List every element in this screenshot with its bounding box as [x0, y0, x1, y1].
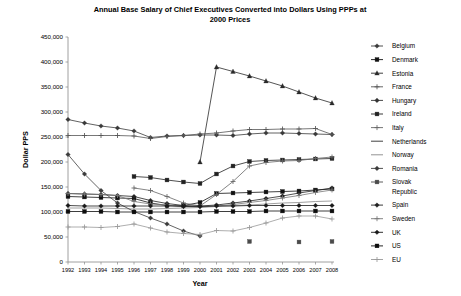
marker-plus [132, 134, 137, 139]
marker-diamond [280, 203, 285, 208]
marker-plus [66, 225, 71, 230]
marker-plus [165, 134, 170, 139]
marker-square [375, 244, 379, 248]
marker-plus [375, 125, 380, 130]
marker-plus [280, 216, 285, 221]
x-tick-label: 2002 [227, 267, 239, 273]
y-tick-label: 150,000 [41, 183, 64, 190]
marker-square [314, 209, 318, 213]
marker-triangle [198, 160, 203, 164]
marker-diamond [82, 121, 87, 126]
marker-plus [264, 221, 269, 226]
legend-item-sweden[interactable]: Sweden [371, 215, 416, 222]
legend-label: US [392, 242, 401, 249]
y-tick-label: 100,000 [41, 208, 64, 215]
legend-item-italy[interactable]: Italy [371, 124, 405, 132]
marker-square [248, 240, 252, 244]
legend-label: Spain [392, 201, 409, 209]
marker-plus [148, 188, 153, 193]
x-tick-label: 1998 [161, 267, 173, 273]
marker-plus [82, 225, 87, 230]
legend-item-eu[interactable]: EU [371, 256, 401, 263]
marker-diamond [247, 203, 252, 208]
legend-item-slovak-republic[interactable]: SlovakRepublic [371, 178, 418, 196]
legend-item-estonia[interactable]: Estonia [371, 70, 414, 77]
marker-diamond [247, 132, 252, 137]
marker-square [132, 210, 136, 214]
marker-square [281, 209, 285, 213]
legend-label: EU [392, 256, 401, 263]
marker-plus [132, 222, 137, 227]
marker-diamond [375, 98, 380, 103]
marker-diamond [375, 166, 380, 171]
legend-label: Sweden [392, 215, 416, 222]
y-tick-label: 450,000 [41, 33, 64, 40]
series-italy [132, 155, 335, 209]
marker-square [116, 210, 120, 214]
legend-item-denmark[interactable]: Denmark [371, 56, 419, 63]
legend-item-netherlands[interactable]: Netherlands [371, 138, 426, 145]
x-tick-label: 1997 [144, 267, 156, 273]
marker-square [198, 182, 202, 186]
marker-diamond [375, 230, 380, 235]
marker-plus [181, 133, 186, 138]
legend-item-norway[interactable]: Norway [371, 151, 414, 159]
marker-plus [132, 186, 137, 191]
x-tick-label: 2004 [260, 267, 272, 273]
legend-label: Norway [392, 151, 414, 159]
marker-plus [375, 216, 380, 221]
marker-square [132, 175, 136, 179]
marker-square [165, 210, 169, 214]
series-slovak-republic [248, 240, 334, 244]
marker-square [231, 191, 235, 195]
x-tick-label: 1995 [111, 267, 123, 273]
marker-square [182, 180, 186, 184]
marker-plus [375, 257, 380, 262]
legend-item-romania[interactable]: Romania [371, 165, 418, 172]
marker-diamond [115, 204, 120, 209]
x-axis-title: Year [192, 279, 207, 288]
legend-item-us[interactable]: US [371, 242, 401, 249]
y-tick-label: 300,000 [41, 108, 64, 115]
x-tick-label: 2006 [293, 267, 305, 273]
marker-plus [231, 129, 236, 134]
legend-item-belgium[interactable]: Belgium [371, 42, 415, 50]
legend-item-uk[interactable]: UK [371, 229, 402, 236]
marker-plus [99, 133, 104, 138]
marker-plus [264, 127, 269, 132]
marker-plus [99, 225, 104, 230]
marker-plus [231, 229, 236, 234]
series-line [68, 216, 332, 235]
marker-plus [330, 217, 335, 222]
marker-square [182, 210, 186, 214]
marker-square [149, 210, 153, 214]
plot-area: 050,000100,000150,000200,000250,000300,0… [0, 0, 461, 296]
y-tick-label: 200,000 [41, 158, 64, 165]
legend-label: Romania [392, 165, 418, 172]
marker-diamond [165, 222, 170, 227]
marker-plus [214, 228, 219, 233]
legend-item-france[interactable]: France [371, 83, 412, 90]
y-axis-title: Dollar PPS [21, 131, 30, 168]
x-tick-label: 1999 [177, 267, 189, 273]
marker-plus [313, 214, 318, 219]
marker-square [330, 240, 334, 244]
legend-item-hungary[interactable]: Hungary [371, 97, 417, 105]
marker-triangle [214, 65, 219, 69]
legend-item-ireland[interactable]: Ireland [371, 110, 412, 117]
marker-diamond [66, 203, 71, 208]
marker-square [149, 176, 153, 180]
marker-diamond [99, 124, 104, 129]
x-tick-label: 2001 [210, 267, 222, 273]
series-eu [66, 214, 335, 238]
legend-label: Ireland [392, 110, 412, 117]
marker-square [375, 58, 379, 62]
marker-square [264, 190, 268, 194]
y-tick-label: 400,000 [41, 58, 64, 65]
legend-item-spain[interactable]: Spain [371, 201, 409, 209]
x-tick-label: 1993 [78, 267, 90, 273]
marker-plus [165, 230, 170, 235]
marker-square [83, 210, 87, 214]
marker-plus [82, 133, 87, 138]
marker-square [281, 190, 285, 194]
